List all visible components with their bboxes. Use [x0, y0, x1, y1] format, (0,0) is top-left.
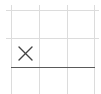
- cell-r1-c0[interactable]: [12, 39, 40, 67]
- cell-r0-c0[interactable]: [12, 11, 40, 39]
- cell-r1-c2[interactable]: [68, 39, 96, 67]
- cell-r0-c1[interactable]: [40, 11, 68, 39]
- tic-tac-toe-board: [0, 0, 101, 94]
- cell-r0-c2[interactable]: [68, 11, 96, 39]
- x-mark-icon: [12, 39, 40, 67]
- cell-r2-c2[interactable]: [68, 68, 96, 94]
- cell-r2-c0[interactable]: [12, 68, 40, 94]
- cell-r2-c1[interactable]: [40, 68, 68, 94]
- cell-r1-c1[interactable]: [40, 39, 68, 67]
